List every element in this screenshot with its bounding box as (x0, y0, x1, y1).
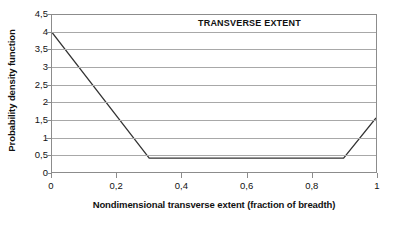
gridline-horizontal (52, 14, 376, 15)
y-axis-tick-mark (46, 102, 51, 103)
gridline-horizontal (52, 155, 376, 156)
y-axis-tick-mark (46, 32, 51, 33)
gridline-horizontal (52, 138, 376, 139)
gridline-horizontal (52, 102, 376, 103)
chart-figure: Probability density function 00,511,522,… (0, 0, 394, 231)
x-axis-tick-mark (51, 173, 52, 178)
y-axis-tick-label: 2,5 (24, 80, 48, 90)
x-axis-tick-label: 0,2 (110, 181, 123, 191)
y-axis-tick-labels: 00,511,522,533,544,5 (22, 0, 48, 231)
y-axis-title-label: Probability density function (6, 29, 17, 151)
y-axis-tick-mark (46, 155, 51, 156)
y-axis-tick-mark (46, 85, 51, 86)
series-line-chart (52, 15, 376, 172)
y-axis-tick-label: 2 (24, 97, 48, 107)
y-axis-tick-mark (46, 67, 51, 68)
x-axis-tick-mark (377, 173, 378, 178)
gridline-horizontal (52, 32, 376, 33)
y-axis-tick-label: 1,5 (24, 115, 48, 125)
plot-area (51, 14, 377, 173)
gridline-horizontal (52, 49, 376, 50)
y-axis-tick-label: 0,5 (24, 150, 48, 160)
transverse-extent-annotation: TRANSVERSE EXTENT (198, 18, 301, 28)
y-axis-tick-mark (46, 138, 51, 139)
gridline-horizontal (52, 120, 376, 121)
x-axis-tick-label: 0,4 (175, 181, 188, 191)
gridline-horizontal (52, 85, 376, 86)
y-axis-tick-label: 0 (24, 168, 48, 178)
x-axis-tick-mark (312, 173, 313, 178)
y-axis-tick-label: 3 (24, 62, 48, 72)
y-axis-tick-label: 4,5 (24, 9, 48, 19)
gridline-horizontal (52, 67, 376, 68)
y-axis-tick-label: 3,5 (24, 44, 48, 54)
x-axis-tick-label: 0,8 (305, 181, 318, 191)
x-axis-tick-label: 0 (48, 181, 53, 191)
x-axis-tick-mark (181, 173, 182, 178)
x-axis-tick-label: 0,6 (240, 181, 253, 191)
x-axis-tick-label: 1 (374, 181, 379, 191)
y-axis-title: Probability density function (0, 0, 22, 180)
x-axis-tick-mark (247, 173, 248, 178)
pdf-series-line (52, 32, 376, 158)
x-axis-title: Nondimensional transverse extent (fracti… (51, 199, 377, 210)
y-axis-tick-label: 1 (24, 133, 48, 143)
y-axis-tick-label: 4 (24, 27, 48, 37)
y-axis-tick-mark (46, 120, 51, 121)
x-axis-tick-mark (116, 173, 117, 178)
y-axis-tick-mark (46, 14, 51, 15)
y-axis-tick-mark (46, 49, 51, 50)
